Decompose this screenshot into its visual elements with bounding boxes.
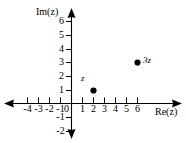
real-axis-left-arrowhead — [4, 100, 14, 108]
data-point-z — [90, 87, 96, 93]
imaginary-axis-down-arrowhead — [68, 129, 76, 139]
y-tick-label--2: -2 — [54, 126, 67, 136]
data-point-3z — [134, 59, 140, 65]
imaginary-axis-up-arrowhead — [68, 8, 76, 18]
x-tick-label-3: 3 — [100, 104, 109, 114]
y-tick-label--1: -1 — [54, 112, 67, 122]
point-label-z: z — [81, 74, 85, 83]
x-tick-label-4: 4 — [111, 104, 120, 114]
x-tick-label-1: 1 — [78, 104, 87, 114]
y-tick-label-5: 5 — [57, 30, 66, 40]
axes-and-points-graphic — [0, 0, 186, 143]
y-tick-label-3: 3 — [57, 57, 66, 67]
y-tick-label-6: 6 — [57, 16, 66, 26]
y-tick-label-4: 4 — [57, 44, 66, 54]
x-tick-label-6: 6 — [133, 104, 142, 114]
point-label-3z: 3z — [143, 56, 151, 65]
y-tick-label-1: 1 — [57, 85, 66, 95]
complex-plane-figure: Im(z) Re(z) 0 -4 -3 -2 -1 1 2 3 4 5 6 6 … — [0, 0, 186, 143]
real-axis-title: Re(z) — [155, 107, 177, 117]
x-tick-label-2: 2 — [89, 104, 98, 114]
x-tick-label-5: 5 — [122, 104, 131, 114]
imaginary-axis-title: Im(z) — [36, 7, 58, 17]
y-tick-label-2: 2 — [57, 71, 66, 81]
